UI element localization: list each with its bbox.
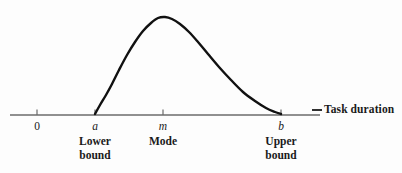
upper-bound-caption: Upper bound xyxy=(241,135,321,162)
tick-label-upper-bound-symbol: b xyxy=(276,120,286,132)
tick-label-lower-bound-symbol: a xyxy=(90,120,100,132)
tick-label-origin: 0 xyxy=(32,120,42,132)
density-curve xyxy=(95,17,281,114)
mode-caption: Mode xyxy=(133,135,193,149)
task-duration-distribution-figure: Task duration 0 a m b Lower bound Mode U… xyxy=(0,0,402,173)
x-axis-name-label: Task duration xyxy=(324,103,394,115)
lower-bound-caption: Lower bound xyxy=(55,135,135,162)
tick-label-mode-symbol: m xyxy=(157,120,169,132)
